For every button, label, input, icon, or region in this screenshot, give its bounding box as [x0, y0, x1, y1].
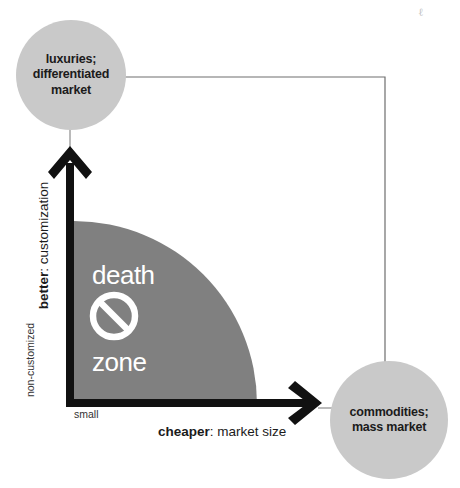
- node-luxuries-label: luxuries; differentiated market: [33, 52, 109, 98]
- node-commodities: commodities; mass market: [330, 361, 448, 479]
- y-axis-label-rest: : customization: [36, 182, 51, 272]
- node-luxuries: luxuries; differentiated market: [16, 20, 126, 130]
- x-axis-tick-label: small: [74, 408, 99, 420]
- x-axis-label-bold: cheaper: [158, 424, 210, 439]
- x-axis-label: cheaper: market size: [158, 424, 286, 439]
- y-axis-label: better: customization: [36, 166, 51, 326]
- x-axis-label-rest: : market size: [210, 424, 287, 439]
- y-axis-tick-label: non-customized: [24, 305, 36, 415]
- scan-artifact-mark: ℓ: [418, 6, 434, 18]
- y-axis-label-bold: better: [36, 272, 51, 310]
- diagram-canvas: death zone better: customization non-cus…: [0, 0, 460, 488]
- node-commodities-label: commodities; mass market: [350, 405, 429, 436]
